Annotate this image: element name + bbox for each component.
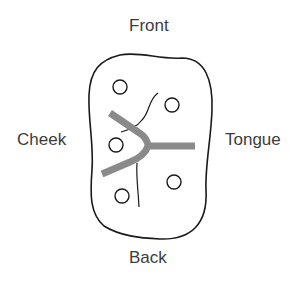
cusp-circle bbox=[165, 98, 179, 112]
y-groove-line bbox=[102, 113, 195, 174]
fissure-line-lower bbox=[137, 163, 139, 207]
cusp-circle bbox=[115, 189, 129, 203]
tooth-surface-diagram bbox=[0, 0, 306, 286]
cusp-circle bbox=[113, 80, 127, 94]
cusp-circle bbox=[167, 175, 181, 189]
cusp-circle bbox=[109, 138, 123, 152]
